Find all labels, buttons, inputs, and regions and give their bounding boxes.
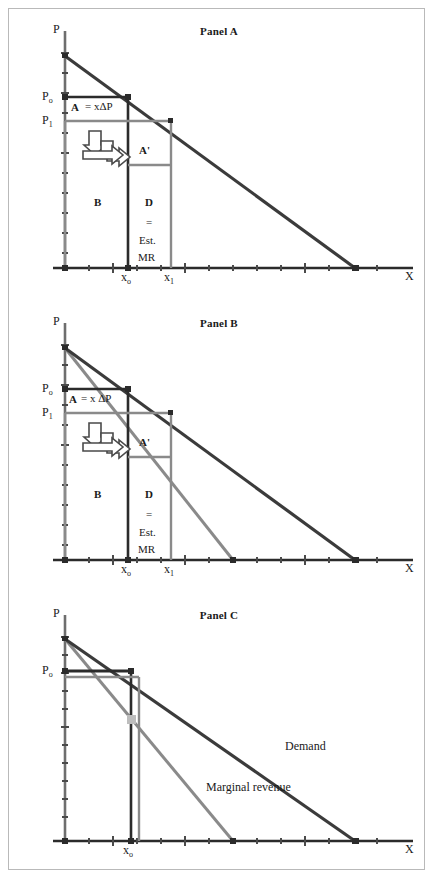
figure-frame: Panel A [8,8,425,870]
panel-b-area-a: A [69,394,77,405]
panel-b-y-axis-label: P [53,315,60,327]
panel-a-area-d-mr: MR [138,252,155,263]
panel-b-area-d: D [145,489,153,500]
panel-c-price-high-label: Po [42,664,53,679]
panel-b: Panel B [9,301,424,593]
panel-b-price-high-label: Po [42,382,53,397]
panel-a-area-d-est: Est. [139,235,156,246]
panel-a-qty-high-label: x1 [164,271,174,286]
panel-b-area-a-prime: A' [139,437,150,448]
panel-a-price-low-label: P1 [42,114,53,129]
panel-a-area-a-formula: = xΔP [85,101,113,112]
panel-b-price-low-label: P1 [42,406,53,421]
panel-a-area-a: A [71,102,79,113]
panel-a-plot [9,9,424,301]
panel-a: Panel A [9,9,424,301]
panel-a-area-d-equals: = [146,217,152,228]
panel-a-area-d: D [145,197,153,208]
panel-c-plot [9,593,424,869]
panel-a-area-a-prime: A' [139,145,150,156]
panel-c: Panel C [9,593,424,869]
panel-b-area-d-est: Est. [139,527,156,538]
panel-c-y-axis-label: P [53,607,60,619]
panel-b-area-d-mr: MR [138,544,155,555]
panel-c-qty-low-label: xo [123,844,133,859]
panel-c-demand-label: Demand [285,740,326,752]
panel-b-qty-high-label: x1 [164,563,174,578]
panel-b-area-b: B [94,489,101,500]
panel-a-area-b: B [94,197,101,208]
panel-b-area-d-equals: = [146,509,152,520]
panel-a-qty-low-label: xo [121,271,131,286]
panel-c-marginal-revenue-label: Marginal revenue [206,781,291,793]
panel-a-price-high-label: Po [42,90,53,105]
panel-b-qty-low-label: xo [121,563,131,578]
panel-c-x-axis-label: X [405,843,414,855]
demand-curve [65,56,355,268]
panel-a-y-axis-label: P [53,23,60,35]
mr-intersection-marker [127,715,136,724]
panel-a-x-axis-label: X [405,270,414,282]
panel-b-area-a-formula: = x ΔP [81,393,111,404]
transfer-arrow [83,131,130,166]
transfer-arrow [83,423,130,458]
panel-b-x-axis-label: X [405,562,414,574]
panel-b-plot [9,301,424,593]
demand-curve [65,348,355,560]
